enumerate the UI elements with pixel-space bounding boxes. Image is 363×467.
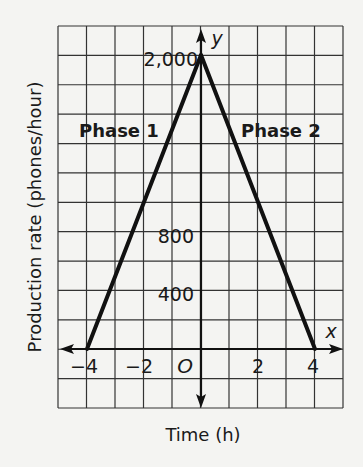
y-axis-title: Production rate (phones/hour): [24, 82, 45, 353]
y-tick-400: 400: [158, 283, 194, 305]
x-tick-2: 2: [252, 355, 264, 377]
x-axis-title: Time (h): [164, 424, 240, 445]
x-axis-name: x: [324, 320, 337, 342]
phase-2-label: Phase 2: [241, 120, 321, 141]
origin-label: O: [177, 354, 193, 378]
chart-canvas: 2,000 800 400 −4 −2 O 2 4 x y Phase 1 Ph…: [0, 0, 363, 467]
x-tick-4: 4: [307, 355, 319, 377]
x-tick-minus-2: −2: [125, 355, 153, 377]
y-axis-name: y: [210, 27, 223, 49]
phase-1-label: Phase 1: [79, 120, 159, 141]
y-tick-800: 800: [158, 225, 194, 247]
y-axis: [196, 29, 206, 408]
x-tick-minus-4: −4: [70, 355, 98, 377]
y-tick-2000: 2,000: [144, 48, 198, 70]
